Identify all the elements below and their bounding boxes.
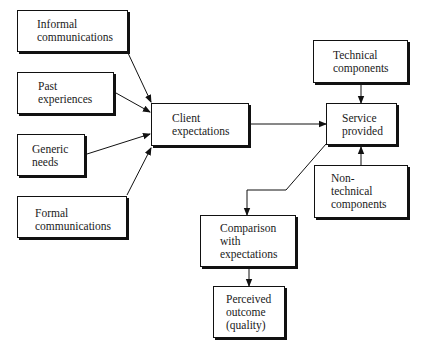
node-label: Formal communications [35, 207, 111, 233]
node-informal-communications: Informal communications [17, 10, 128, 52]
arrow-generic-to-client [87, 134, 150, 154]
node-label: Perceived outcome (quality) [226, 293, 271, 332]
node-past-experiences: Past experiences [17, 72, 114, 114]
node-formal-communications: Formal communications [17, 196, 127, 238]
arrow-past-to-client [116, 93, 150, 112]
node-label: Comparison with expectations [220, 222, 277, 261]
node-label: Client expectations [172, 112, 229, 138]
node-client-expectations: Client expectations [151, 103, 249, 146]
node-non-technical-components: Non- technical components [314, 165, 408, 218]
diagram-canvas: Informal communications Past experiences… [0, 0, 426, 349]
node-service-provided: Service provided [326, 103, 397, 145]
node-label: Past experiences [38, 80, 92, 106]
node-label: Technical components [333, 49, 389, 75]
arrow-formal-to-client [127, 148, 151, 195]
node-generic-needs: Generic needs [17, 134, 85, 176]
node-comparison-with-expectations: Comparison with expectations [200, 215, 296, 267]
node-label: Generic needs [32, 143, 68, 169]
node-label: Non- technical components [331, 172, 387, 211]
node-perceived-outcome: Perceived outcome (quality) [213, 286, 285, 338]
node-label: Informal communications [37, 18, 113, 44]
node-label: Service provided [342, 112, 383, 138]
arrow-informal-to-client [128, 53, 151, 102]
node-technical-components: Technical components [313, 40, 408, 83]
